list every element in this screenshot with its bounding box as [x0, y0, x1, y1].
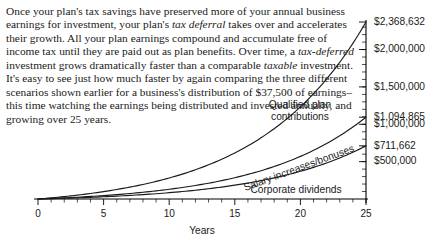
- y-endpoint-label: $1,094,865: [374, 111, 425, 122]
- x-tick-label: 25: [360, 208, 372, 219]
- series-label: Qualified plancontributions: [269, 99, 331, 122]
- y-tick-label: $500,000: [374, 155, 417, 166]
- series-inline-labels: Qualified plancontributionsSalary increa…: [242, 99, 355, 195]
- y-tick-label: $2,000,000: [374, 43, 425, 54]
- growth-chart: 0510152025 $500,000$1,000,000$1,500,000$…: [0, 0, 437, 240]
- series-label-line: Qualified plan: [269, 99, 331, 110]
- x-tick-label: 5: [101, 208, 107, 219]
- y-tick-label: $1,500,000: [374, 81, 425, 92]
- x-tick-label: 0: [35, 208, 41, 219]
- x-tick-label: 10: [164, 208, 176, 219]
- chart-svg: 0510152025 $500,000$1,000,000$1,500,000$…: [0, 0, 437, 240]
- y-axis-tick-labels: $500,000$1,000,000$1,500,000$2,000,000$2…: [374, 16, 425, 167]
- x-axis-title: Years: [189, 225, 215, 236]
- y-axis-ticks: [359, 22, 366, 192]
- x-axis-ticks: [38, 199, 366, 205]
- x-tick-label: 20: [295, 208, 307, 219]
- series-label-line: Corporate dividends: [250, 184, 341, 195]
- y-endpoint-label: $711,662: [374, 140, 416, 151]
- y-endpoint-label: $2,368,632: [374, 16, 425, 27]
- series-label-line: contributions: [271, 111, 329, 122]
- series-label: Corporate dividends: [250, 184, 341, 195]
- x-tick-label: 15: [229, 208, 241, 219]
- figure-container: Once your plan's tax savings have preser…: [0, 0, 437, 240]
- x-axis-tick-labels: 0510152025: [35, 208, 372, 219]
